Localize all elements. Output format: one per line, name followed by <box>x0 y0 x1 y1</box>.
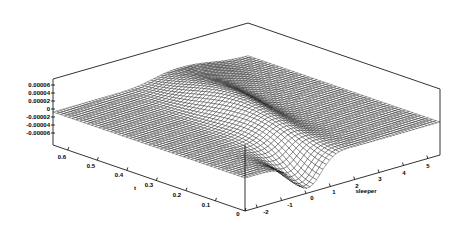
sleeper-tick-label: -2 <box>263 209 269 215</box>
t-tick-mark <box>215 198 216 201</box>
z-tick-label: -0.00006 <box>26 130 50 136</box>
t-tick-mark <box>156 178 157 181</box>
sleeper-tick-label: 3 <box>378 176 382 182</box>
sleeper-tick-mark <box>427 156 428 159</box>
t-tick-mark <box>186 188 187 191</box>
sleeper-tick-label: 5 <box>426 163 430 169</box>
sleeper-tick-mark <box>256 205 257 208</box>
sleeper-tick-label: -1 <box>287 202 293 208</box>
sleeper-tick-label: 0 <box>310 195 314 201</box>
t-tick-label: 0.6 <box>58 154 67 160</box>
sleeper-tick-mark <box>329 184 330 187</box>
sleeper-tick-mark <box>281 198 282 201</box>
sleeper-axis-title: sleeper <box>355 188 377 194</box>
t-tick-label: 0.2 <box>173 192 182 198</box>
z-tick-label: -0.00004 <box>26 122 50 128</box>
sleeper-tick-label: 4 <box>402 170 406 176</box>
sleeper-tick-mark <box>354 177 355 180</box>
t-tick-label: 0.1 <box>202 202 211 208</box>
z-tick-label: -0.00002 <box>26 114 50 120</box>
wireframe-surface <box>53 56 440 189</box>
t-tick-mark <box>127 167 128 170</box>
t-tick-label: 0.3 <box>145 182 154 188</box>
sleeper-tick-label: 1 <box>332 189 336 195</box>
t-tick-label: 0.4 <box>115 172 124 178</box>
z-tick-label: 0.00006 <box>28 82 50 88</box>
t-axis-title: t <box>134 185 136 191</box>
t-tick-label: 0.5 <box>87 163 96 169</box>
sleeper-tick-mark <box>305 191 306 194</box>
z-tick-label: 0.00002 <box>28 98 50 104</box>
z-axis: 0.00006 0.00004 0.00002 0 -0.00002 -0.00… <box>26 82 50 136</box>
surface-plot: 0.00006 0.00004 0.00002 0 -0.00002 -0.00… <box>0 0 467 232</box>
sleeper-tick-mark <box>402 163 403 166</box>
z-tick-label: 0.00004 <box>28 90 50 96</box>
sleeper-tick-mark <box>378 170 379 173</box>
t-tick-label: 0 <box>236 211 240 217</box>
t-tick-mark <box>97 157 98 160</box>
z-tick-label: 0 <box>47 106 51 112</box>
t-tick-mark <box>68 147 69 150</box>
